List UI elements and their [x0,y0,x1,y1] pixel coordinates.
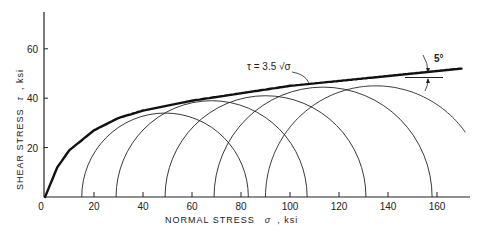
x-tick-label: 160 [429,201,446,212]
x-tick-label: 80 [235,201,247,212]
envelope-label: τ = 3.5 √σ [247,61,292,72]
x-tick-label: 140 [380,201,397,212]
mohr-circles [82,86,466,197]
mohr-envelope-chart: 204060 020406080100120140160 τ = 3.5 √σ … [0,0,478,235]
x-tick-label: 0 [38,201,44,212]
x-tick-label: 120 [331,201,348,212]
x-tick-label: 20 [88,201,100,212]
y-tick-label: 20 [27,143,39,154]
y-tick-label: 40 [27,93,39,104]
x-tick-label: 100 [282,201,299,212]
y-tick-label: 60 [27,44,39,55]
mohr-circle [165,96,366,197]
angle-arrow-lower [426,78,430,83]
x-tick-label: 60 [186,201,198,212]
failure-envelope-curve [45,69,462,197]
angle-label: 5° [434,53,444,64]
y-ticks: 204060 [27,44,48,154]
mohr-circle [82,113,249,197]
y-axis-label: SHEAR STRESSτ, ksi [15,69,25,190]
x-tick-label: 40 [137,201,149,212]
x-ticks: 020406080100120140160 [38,192,446,212]
mohr-circle [266,86,466,197]
x-axis-label: NORMAL STRESSσ, ksi [165,215,298,225]
envelope-label-leader [292,72,309,83]
